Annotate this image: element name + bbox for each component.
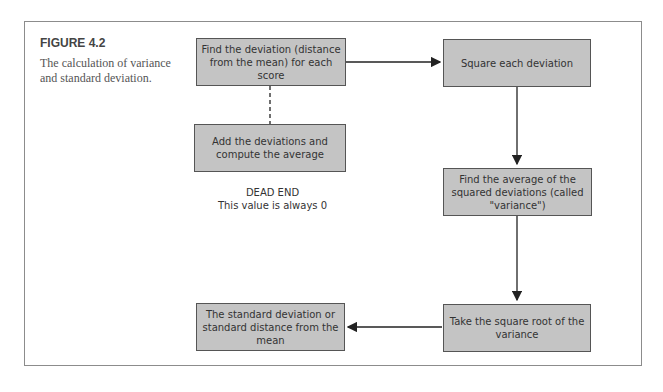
node-square-each: Square each deviation: [443, 39, 591, 87]
dead-end-note: DEAD END This value is always 0: [215, 186, 330, 212]
dead-end-title: DEAD END: [215, 186, 330, 199]
node-average-squared: Find the average of the squared deviatio…: [443, 168, 592, 216]
dead-end-text: This value is always 0: [215, 199, 330, 212]
node-find-deviation: Find the deviation (distance from the me…: [196, 38, 346, 86]
node-add-deviations: Add the deviations and compute the avera…: [194, 124, 346, 172]
node-standard-deviation: The standard deviation or standard dista…: [196, 303, 345, 351]
node-square-root: Take the square root of the variance: [443, 304, 591, 352]
